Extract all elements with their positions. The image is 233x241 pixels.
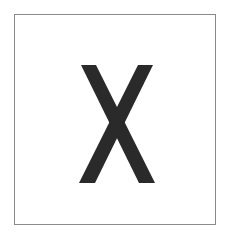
- x-letter-glyph: X: [79, 65, 155, 183]
- symbol-card: X: [14, 14, 216, 225]
- x-icon: X: [79, 65, 155, 183]
